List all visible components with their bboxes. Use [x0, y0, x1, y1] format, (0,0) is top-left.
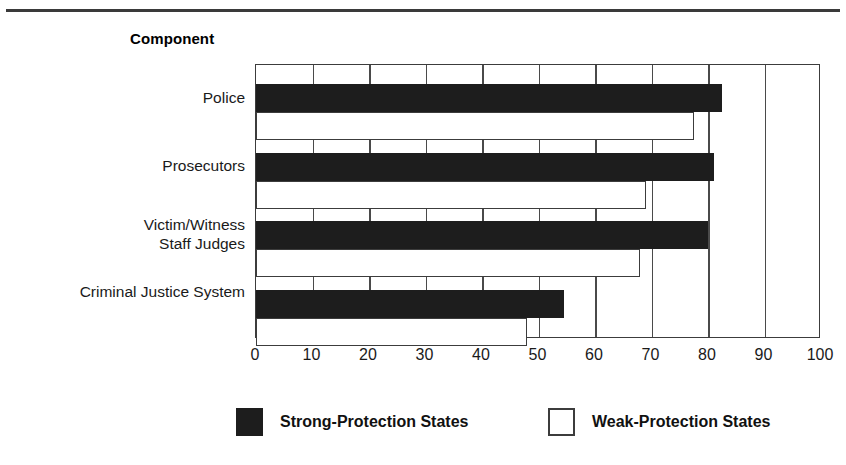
- legend-item-weak-protection-states: Weak-Protection States: [548, 408, 770, 436]
- x-tick-label-40: 40: [472, 346, 490, 364]
- chart-legend: Strong-Protection States Weak-Protection…: [0, 408, 846, 453]
- legend-item-strong-protection-states: Strong-Protection States: [236, 408, 468, 436]
- bar-strong-2: [256, 221, 708, 249]
- category-label-criminal-justice-system: Criminal Justice System: [0, 282, 245, 301]
- x-tick-label-60: 60: [585, 346, 603, 364]
- legend-label: Strong-Protection States: [280, 413, 468, 431]
- category-label-prosecutors: Prosecutors: [0, 156, 245, 175]
- gridline-90: [765, 65, 767, 337]
- bar-weak-2: [256, 249, 640, 277]
- x-tick-label-70: 70: [642, 346, 660, 364]
- category-label-police: Police: [0, 88, 245, 107]
- bar-weak-3: [256, 318, 527, 346]
- x-tick-label-80: 80: [698, 346, 716, 364]
- x-tick-label-10: 10: [303, 346, 321, 364]
- category-label-line: Prosecutors: [0, 156, 245, 175]
- x-tick-label-50: 50: [529, 346, 547, 364]
- x-tick-label-0: 0: [251, 346, 260, 364]
- x-tick-label-30: 30: [416, 346, 434, 364]
- x-tick-label-90: 90: [755, 346, 773, 364]
- bar-strong-0: [256, 84, 722, 112]
- bar-weak-0: [256, 112, 694, 140]
- x-tick-label-100: 100: [807, 346, 834, 364]
- category-label-line: Criminal Justice System: [0, 282, 245, 301]
- x-tick-label-20: 20: [359, 346, 377, 364]
- category-label-line: Police: [0, 88, 245, 107]
- bar-strong-1: [256, 153, 714, 181]
- category-label-victim-witness-staff-judges: Victim/Witness Staff Judges: [0, 215, 245, 253]
- category-label-line: Victim/Witness: [0, 215, 245, 234]
- header-divider-rule: [6, 9, 840, 12]
- bar-chart-figure: Component Police Prosecutors Victim/Witn…: [0, 0, 846, 465]
- legend-swatch-filled-icon: [236, 408, 263, 436]
- legend-label: Weak-Protection States: [592, 413, 770, 431]
- plot-area: [255, 64, 820, 338]
- legend-swatch-hollow-icon: [548, 408, 575, 436]
- axis-group-title: Component: [130, 30, 214, 47]
- bar-weak-1: [256, 181, 646, 209]
- category-label-line: Staff Judges: [0, 234, 245, 253]
- bar-strong-3: [256, 290, 564, 318]
